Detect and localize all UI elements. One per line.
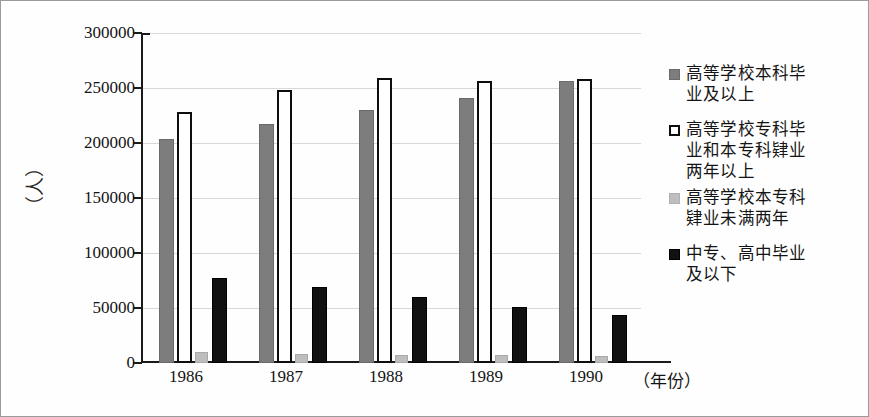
y-tick-mark [133, 197, 142, 199]
bar [277, 90, 292, 363]
legend-label: 高等学校专科毕业和本专科肄业两年以上 [686, 119, 806, 182]
legend-label: 高等学校本科毕业及以上 [686, 63, 806, 105]
legend-label: 中专、高中毕业及以下 [686, 243, 806, 285]
x-axis-unit-label: （年份） [633, 367, 701, 392]
y-tick-label: 150000 [84, 188, 135, 208]
bar [459, 98, 474, 363]
x-tick-label: 1990 [569, 367, 603, 387]
bar [359, 110, 374, 363]
bar [259, 124, 274, 363]
bar [495, 355, 508, 363]
bar [577, 79, 592, 363]
legend-swatch-icon [669, 193, 680, 204]
bar-series-container [141, 33, 641, 363]
bar [395, 355, 408, 363]
plot-area [141, 33, 641, 363]
y-tick-mark [133, 362, 142, 364]
y-tick-label: 100000 [84, 243, 135, 263]
x-tick-label: 1987 [269, 367, 303, 387]
y-tick-label: 50000 [93, 298, 136, 318]
bar [195, 352, 208, 363]
bar [559, 81, 574, 363]
legend-swatch-icon [669, 249, 680, 260]
bar-group [141, 33, 241, 363]
bar [212, 278, 227, 363]
x-tick-label: 1986 [169, 367, 203, 387]
legend-swatch-icon [669, 125, 680, 136]
bar [512, 307, 527, 363]
bar [377, 78, 392, 363]
bar [159, 139, 174, 363]
y-axis-tick-labels: 050000100000150000200000250000300000 [29, 1, 135, 417]
x-tick-label: 1988 [369, 367, 403, 387]
legend-item[interactable]: 中专、高中毕业及以下 [669, 243, 865, 285]
legend-item[interactable]: 高等学校本科毕业及以上 [669, 63, 865, 105]
bar [312, 287, 327, 363]
bar-group [541, 33, 641, 363]
bar-group [441, 33, 541, 363]
legend-label: 高等学校本专科肄业未满两年 [686, 187, 806, 229]
bar-group [341, 33, 441, 363]
chart-figure: （人） 050000100000150000200000250000300000… [0, 0, 869, 417]
y-tick-label: 250000 [84, 78, 135, 98]
bar [177, 112, 192, 363]
y-tick-mark [133, 142, 142, 144]
x-axis-tick-labels: 19901989198819871986 （年份） [141, 367, 701, 407]
y-tick-label: 300000 [84, 23, 135, 43]
bar-group [241, 33, 341, 363]
legend-item[interactable]: 高等学校本专科肄业未满两年 [669, 187, 865, 229]
y-tick-label: 200000 [84, 133, 135, 153]
legend-swatch-icon [669, 69, 680, 80]
y-tick-mark [133, 32, 142, 34]
bar [595, 356, 608, 363]
y-tick-mark [133, 252, 142, 254]
x-tick-label: 1989 [469, 367, 503, 387]
y-tick-mark [133, 87, 142, 89]
bar [612, 315, 627, 363]
y-tick-mark [133, 307, 142, 309]
bar [295, 354, 308, 363]
bar [477, 81, 492, 363]
chart-legend: 高等学校本科毕业及以上高等学校专科毕业和本专科肄业两年以上高等学校本专科肄业未满… [669, 63, 865, 285]
bar [412, 297, 427, 363]
legend-item[interactable]: 高等学校专科毕业和本专科肄业两年以上 [669, 119, 865, 182]
